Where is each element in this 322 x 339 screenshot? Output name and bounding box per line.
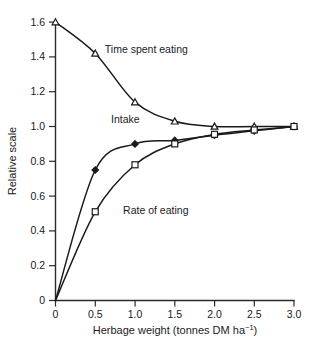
- markers-time-spent-eating: [52, 19, 297, 130]
- x-tick-label: 1.0: [128, 308, 143, 320]
- x-tick-label: 0: [53, 308, 59, 320]
- y-tick-label: 1.2: [30, 85, 45, 97]
- x-axis-title-tail: ): [254, 324, 258, 336]
- x-axis-title-main: Herbage weight (tonnes DM ha: [93, 324, 246, 336]
- data-point-marker: [251, 127, 257, 133]
- x-tick-label: 2.5: [247, 308, 262, 320]
- data-point-marker: [171, 118, 178, 124]
- series-label-time-spent-eating: Time spent eating: [105, 43, 188, 55]
- series-label-intake: Intake: [111, 113, 140, 125]
- x-tick-label: 2.0: [207, 308, 222, 320]
- y-tick-label: 0.6: [30, 190, 45, 202]
- data-point-marker: [212, 131, 218, 137]
- curve-time-spent-eating: [56, 22, 295, 127]
- y-tick-label: 0: [39, 294, 45, 306]
- data-point-marker: [132, 141, 139, 148]
- y-tick-label: 0.2: [30, 259, 45, 271]
- data-point-marker: [92, 209, 98, 215]
- chart-figure: 0 0.2 0.4 0.6 0.8 1.0 1.2 1.4 1.6 0 0.5 …: [0, 0, 322, 339]
- relative-scale-line-chart: 0 0.2 0.4 0.6 0.8 1.0 1.2 1.4 1.6 0 0.5 …: [0, 0, 322, 339]
- data-point-marker: [291, 124, 297, 130]
- y-tick-label: 1.0: [30, 120, 45, 132]
- series-annotations: Time spent eating Intake Rate of eating: [105, 43, 189, 215]
- data-point-marker: [52, 19, 59, 25]
- markers-intake: [92, 123, 297, 173]
- data-point-marker: [92, 167, 99, 174]
- x-axis-title: Herbage weight (tonnes DM ha−1): [93, 323, 257, 336]
- y-tick-label: 1.6: [30, 16, 45, 28]
- x-tick-label: 0.5: [88, 308, 103, 320]
- y-tick-label: 0.8: [30, 155, 45, 167]
- y-tick-label: 1.4: [30, 50, 45, 62]
- y-tick-label: 0.4: [30, 224, 45, 236]
- data-point-marker: [172, 141, 178, 147]
- data-point-marker: [132, 162, 138, 168]
- series-label-rate-of-eating: Rate of eating: [123, 204, 189, 216]
- x-axis-title-superscript: −1: [245, 323, 254, 332]
- series-curves: [56, 22, 295, 300]
- y-axis-ticks: 0 0.2 0.4 0.6 0.8 1.0 1.2 1.4 1.6: [30, 16, 55, 306]
- y-axis-title: Relative scale: [6, 127, 18, 195]
- x-axis-ticks: 0 0.5 1.0 1.5 2.0 2.5 3.0: [53, 301, 302, 321]
- data-point-marker: [211, 123, 218, 129]
- x-tick-label: 3.0: [287, 308, 302, 320]
- chart-axes: [56, 22, 295, 301]
- x-tick-label: 1.5: [167, 308, 182, 320]
